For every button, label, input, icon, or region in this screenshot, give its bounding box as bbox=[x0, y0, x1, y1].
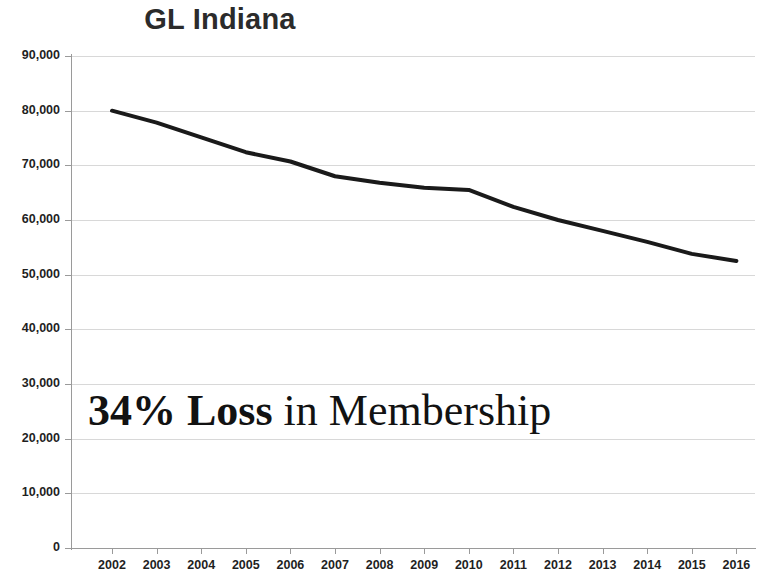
x-axis-tick bbox=[335, 548, 336, 554]
y-axis-label: 70,000 bbox=[0, 157, 60, 171]
x-axis-line bbox=[71, 548, 756, 549]
y-axis-line bbox=[71, 54, 72, 550]
x-axis-tick bbox=[424, 548, 425, 554]
x-axis-tick bbox=[112, 548, 113, 554]
gridline-y bbox=[72, 56, 755, 57]
loss-annotation-regular: in Membership bbox=[273, 386, 552, 435]
y-axis-tick bbox=[65, 329, 72, 330]
y-axis-tick bbox=[65, 439, 72, 440]
y-axis-label: 90,000 bbox=[0, 48, 60, 62]
gridline-y bbox=[72, 493, 755, 494]
gridline-y bbox=[72, 275, 755, 276]
y-axis-label: 80,000 bbox=[0, 103, 60, 117]
y-axis-tick bbox=[65, 275, 72, 276]
gridline-y bbox=[72, 111, 755, 112]
x-axis-label: 2016 bbox=[706, 558, 766, 572]
x-axis-tick bbox=[647, 548, 648, 554]
x-axis-tick bbox=[290, 548, 291, 554]
y-axis-label: 50,000 bbox=[0, 267, 60, 281]
y-axis-tick bbox=[65, 111, 72, 112]
x-axis-tick bbox=[558, 548, 559, 554]
x-axis-tick bbox=[246, 548, 247, 554]
x-axis-tick bbox=[513, 548, 514, 554]
chart-title: GL Indiana bbox=[0, 2, 440, 36]
x-axis-tick bbox=[469, 548, 470, 554]
x-axis-tick bbox=[603, 548, 604, 554]
x-axis-tick bbox=[692, 548, 693, 554]
y-axis-tick bbox=[65, 56, 72, 57]
x-axis-tick bbox=[380, 548, 381, 554]
chart-container: GL Indiana 34% Loss in Membership 010,00… bbox=[0, 0, 766, 585]
y-axis-tick bbox=[65, 165, 72, 166]
y-axis-tick bbox=[65, 220, 72, 221]
x-axis-tick bbox=[736, 548, 737, 554]
plot-area bbox=[72, 56, 755, 548]
y-axis-tick bbox=[65, 493, 72, 494]
gridline-y bbox=[72, 439, 755, 440]
x-axis-tick bbox=[201, 548, 202, 554]
y-axis-label: 60,000 bbox=[0, 212, 60, 226]
loss-annotation: 34% Loss in Membership bbox=[88, 385, 551, 437]
y-axis-label: 20,000 bbox=[0, 431, 60, 445]
loss-annotation-bold: 34% Loss bbox=[88, 386, 273, 435]
gridline-y bbox=[72, 220, 755, 221]
x-axis-tick bbox=[157, 548, 158, 554]
y-axis-label: 40,000 bbox=[0, 321, 60, 335]
y-axis-tick bbox=[65, 548, 72, 549]
y-axis-label: 30,000 bbox=[0, 376, 60, 390]
gridline-y bbox=[72, 329, 755, 330]
y-axis-label: 10,000 bbox=[0, 485, 60, 499]
y-axis-label: 0 bbox=[0, 540, 60, 554]
y-axis-tick bbox=[65, 384, 72, 385]
gridline-y bbox=[72, 165, 755, 166]
